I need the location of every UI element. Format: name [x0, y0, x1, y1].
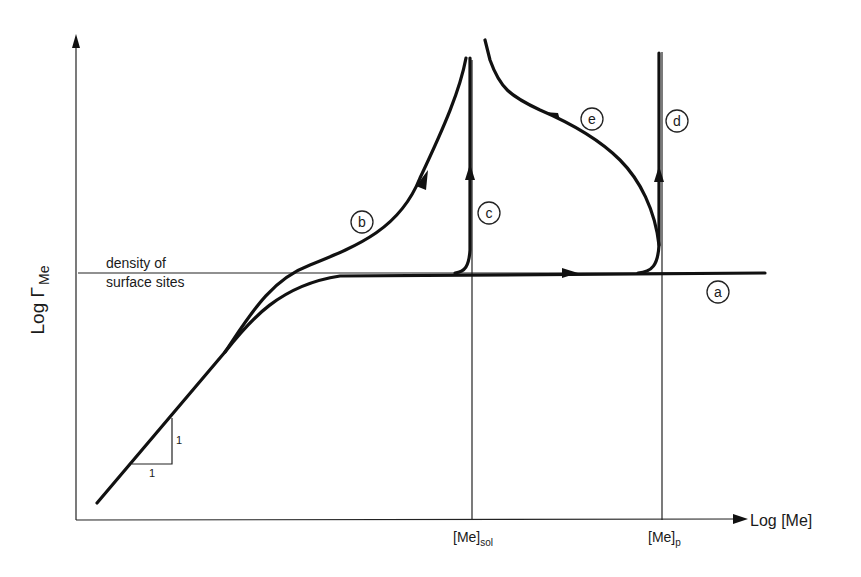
me-p-label: [Me]p [648, 529, 681, 548]
curve-d [638, 53, 659, 273]
curve-label-a: a [707, 281, 729, 303]
svg-text:Log ΓMe: Log ΓMe [27, 265, 52, 334]
me-sol-label: [Me]sol [453, 529, 493, 548]
curve-a [97, 273, 765, 503]
x-axis [76, 514, 748, 524]
curve-b [225, 58, 466, 352]
svg-text:b: b [358, 214, 366, 230]
y-axis [72, 34, 80, 520]
density-label-line1: density of [106, 255, 166, 271]
adsorption-diagram: Log ΓMe Log [Me] density of surface site… [0, 0, 861, 577]
svg-text:d: d [673, 113, 681, 129]
curve-a-arrow-icon [562, 268, 578, 278]
density-label-line2: surface sites [106, 274, 185, 290]
svg-text:1: 1 [149, 467, 155, 479]
svg-text:a: a [714, 284, 722, 300]
curve-label-d: d [666, 110, 688, 132]
curve-c-arrow-icon [465, 164, 475, 180]
curve-label-c: c [478, 202, 500, 224]
svg-text:e: e [588, 111, 596, 127]
x-axis-label: Log [Me] [750, 512, 812, 529]
svg-text:1: 1 [176, 434, 182, 446]
y-axis-label: Log ΓMe [27, 265, 52, 334]
curve-label-b: b [351, 211, 373, 233]
curve-e [485, 40, 659, 245]
svg-text:c: c [486, 205, 493, 221]
y-axis-label-sub: Me [36, 265, 52, 285]
curve-label-e: e [581, 108, 603, 130]
slope-triangle: 1 1 [132, 418, 182, 479]
